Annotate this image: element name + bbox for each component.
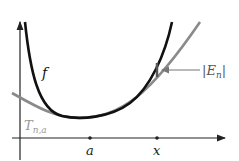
taylor-label: Tn,a — [24, 118, 47, 135]
point-a-tick — [88, 136, 92, 140]
function-label: f — [41, 65, 50, 81]
taylor-diagram: f Tn,a |En| a x — [0, 0, 239, 161]
point-x-tick — [155, 136, 159, 140]
point-a-label: a — [86, 143, 94, 158]
point-x-label: x — [153, 143, 161, 158]
error-label: |En| — [202, 63, 226, 80]
